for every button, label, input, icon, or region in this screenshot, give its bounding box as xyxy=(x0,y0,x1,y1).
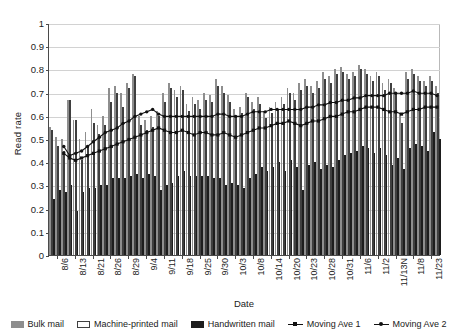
y-tick-label: 1 xyxy=(39,19,44,29)
bar-hand xyxy=(166,185,168,255)
legend-item[interactable]: Moving Ave 1 xyxy=(288,319,361,329)
x-tick-mark xyxy=(200,256,201,259)
x-tick-mark xyxy=(235,256,236,259)
bar-hand xyxy=(172,183,174,255)
x-tick-mark xyxy=(146,256,147,259)
bar-hand xyxy=(160,190,162,255)
bar-hand xyxy=(219,178,221,255)
bar-hand xyxy=(100,185,102,255)
bar-hand xyxy=(136,174,138,255)
bar-hand xyxy=(237,185,239,255)
y-tick-label: 0.2 xyxy=(31,205,44,215)
bar-hand xyxy=(71,185,73,255)
bar-hand xyxy=(397,158,399,255)
x-tick-label: 11/2 xyxy=(382,258,391,275)
x-tick-label: 10/31 xyxy=(346,258,355,281)
x-tick-mark xyxy=(413,256,414,259)
x-tick-mark xyxy=(93,256,94,259)
bar-hand xyxy=(439,139,441,255)
bar-hand xyxy=(130,176,132,255)
bar-hand xyxy=(112,178,114,255)
bar-hand xyxy=(261,167,263,255)
legend-label: Moving Ave 2 xyxy=(393,319,447,329)
x-tick-label: 8/26 xyxy=(114,258,123,276)
x-tick-label: 9/11 xyxy=(168,258,177,275)
y-tick-label: 0.4 xyxy=(31,158,44,168)
x-tick-mark xyxy=(271,256,272,259)
bar-hand xyxy=(243,188,245,255)
legend-swatch-bulk xyxy=(11,321,24,328)
legend-label: Handwritten mail xyxy=(208,319,275,329)
bar-hand xyxy=(302,190,304,255)
x-tick-mark xyxy=(342,256,343,259)
chart-figure: Read rate 00.10.20.30.40.50.60.70.80.91 … xyxy=(0,0,457,336)
legend-item[interactable]: Machine-printed mail xyxy=(77,319,178,329)
legend-item[interactable]: Handwritten mail xyxy=(191,319,275,329)
bar-hand xyxy=(273,167,275,255)
bar-hand xyxy=(201,176,203,255)
bar-hand xyxy=(433,132,435,255)
x-tick-mark xyxy=(57,256,58,259)
bar-hand xyxy=(231,183,233,255)
x-axis-title: Date xyxy=(48,298,440,309)
y-tick-label: 0.7 xyxy=(31,89,44,99)
bar-hand xyxy=(53,199,55,255)
bar-hand xyxy=(196,176,198,255)
legend-swatch-hand xyxy=(191,321,204,328)
y-tick-label: 0.8 xyxy=(31,66,44,76)
legend-item[interactable]: Moving Ave 2 xyxy=(374,319,447,329)
x-tick-label: 8/13 xyxy=(79,258,88,276)
bar-hand xyxy=(374,153,376,255)
x-tick-label: 8/21 xyxy=(97,258,106,276)
x-tick-label: 11/6 xyxy=(364,258,373,275)
y-tick-label: 0.5 xyxy=(31,135,44,145)
bar-hand xyxy=(320,169,322,255)
y-axis-title: Read rate xyxy=(12,84,23,184)
bar-hand xyxy=(350,153,352,255)
bar-series-group xyxy=(49,24,440,255)
bar-hand xyxy=(225,185,227,255)
bar-hand xyxy=(421,146,423,255)
bar-hand xyxy=(213,178,215,255)
x-tick-label: 10/28 xyxy=(328,258,337,281)
legend-item[interactable]: Bulk mail xyxy=(11,319,65,329)
x-tick-label: 10/8 xyxy=(257,258,266,276)
legend-swatch-machine xyxy=(77,321,90,328)
bar-hand xyxy=(124,178,126,255)
bar-hand xyxy=(190,176,192,255)
x-tick-mark xyxy=(110,256,111,259)
bar-hand xyxy=(403,169,405,255)
y-tick-label: 0.6 xyxy=(31,112,44,122)
bar-hand xyxy=(89,188,91,255)
x-tick-label: 11/8 xyxy=(417,258,426,275)
x-tick-mark xyxy=(128,256,129,259)
bar-hand xyxy=(77,211,79,255)
legend-line-marker-icon xyxy=(288,321,303,328)
y-tick-label: 0 xyxy=(39,251,44,261)
bar-hand xyxy=(314,162,316,255)
bar-hand xyxy=(249,178,251,255)
plot-area: 00.10.20.30.40.50.60.70.80.91 xyxy=(48,24,440,256)
bar-hand xyxy=(279,162,281,255)
x-axis-ticks: 8/68/138/218/268/299/49/119/189/259/3010… xyxy=(48,258,440,300)
bar-hand xyxy=(207,176,209,255)
bar-hand xyxy=(409,148,411,255)
bar-hand xyxy=(338,160,340,255)
y-tick-label: 0.9 xyxy=(31,42,44,52)
y-tick-label: 0.3 xyxy=(31,182,44,192)
bar-hand xyxy=(178,176,180,255)
bar-hand xyxy=(368,148,370,255)
chart-legend: Bulk mailMachine-printed mailHandwritten… xyxy=(0,316,457,332)
bar-hand xyxy=(154,176,156,255)
bar-hand xyxy=(356,151,358,255)
bar-hand xyxy=(65,192,67,255)
x-tick-label: 10/23 xyxy=(310,258,319,281)
bar-hand xyxy=(95,188,97,255)
bar-hand xyxy=(285,171,287,255)
legend-line-marker-icon xyxy=(374,321,389,328)
bar-hand xyxy=(184,171,186,255)
bar-hand xyxy=(83,192,85,255)
x-tick-mark xyxy=(217,256,218,259)
x-tick-mark xyxy=(396,256,397,259)
y-tick-label: 0.1 xyxy=(31,228,44,238)
